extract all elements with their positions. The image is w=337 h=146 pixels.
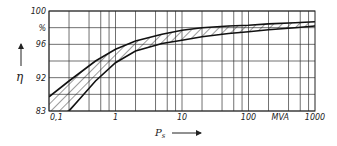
x-axis-title: Ps — [154, 127, 201, 140]
y-axis-title: η — [16, 44, 24, 84]
y-tick-label: 83 — [36, 107, 46, 116]
y-tick-label: 96 — [36, 40, 46, 49]
x-axis-label: Ps — [154, 127, 166, 140]
x-tick-label: 10 — [177, 113, 187, 122]
x-tick-label: MVA — [272, 113, 289, 122]
efficiency-chart: 100%969283 0,1110100MVA1000 η Ps — [0, 0, 337, 146]
x-tick-label: 100 — [241, 113, 256, 122]
y-tick-label: 100 — [31, 7, 46, 16]
y-tick-label: % — [38, 24, 46, 33]
y-axis-label: η — [16, 70, 24, 84]
x-tick-label: 0,1 — [50, 113, 63, 122]
x-tick-labels: 0,1110100MVA1000 — [50, 113, 325, 122]
x-tick-label: 1000 — [305, 113, 325, 122]
y-tick-label: 92 — [36, 74, 46, 83]
x-tick-label: 1 — [113, 113, 118, 122]
y-tick-labels: 100%969283 — [31, 7, 46, 116]
